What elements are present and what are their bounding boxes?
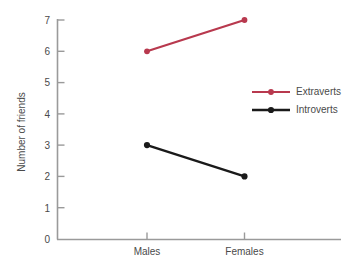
legend-item-extraverts[interactable]: Extraverts: [252, 86, 341, 97]
y-axis-ticks: [58, 20, 65, 208]
series-introverts-point-females: [241, 173, 247, 179]
y-tick-label-6: 6: [44, 46, 50, 57]
series-introverts: [144, 142, 248, 179]
series-introverts-line: [147, 145, 245, 176]
y-axis-tick-labels: 7 6 5 4 3 2 1 0: [44, 15, 50, 245]
y-tick-label-7: 7: [44, 15, 50, 26]
series-extraverts: [144, 17, 247, 54]
legend-label-extraverts: Extraverts: [296, 86, 341, 97]
y-tick-label-1: 1: [44, 203, 50, 214]
x-axis-tick-labels: Males Females: [134, 246, 264, 257]
x-tick-label-males: Males: [134, 246, 161, 257]
chart-canvas: 7 6 5 4 3 2 1 0 Number of friends Males …: [0, 0, 359, 270]
x-tick-label-females: Females: [225, 246, 263, 257]
legend-item-introverts[interactable]: Introverts: [252, 104, 338, 115]
y-tick-label-5: 5: [44, 77, 50, 88]
series-extraverts-line: [147, 20, 245, 51]
y-tick-label-3: 3: [44, 140, 50, 151]
legend-marker-introverts: [268, 107, 274, 113]
line-chart: 7 6 5 4 3 2 1 0 Number of friends Males …: [0, 0, 359, 270]
x-axis-ticks: [147, 233, 245, 240]
series-extraverts-point-males: [144, 48, 150, 54]
series-extraverts-point-females: [242, 17, 248, 23]
legend-marker-extraverts: [268, 89, 274, 95]
y-axis-title: Number of friends: [16, 92, 27, 171]
y-tick-label-4: 4: [44, 109, 50, 120]
series-introverts-point-males: [144, 142, 150, 148]
y-tick-label-2: 2: [44, 171, 50, 182]
legend-label-introverts: Introverts: [296, 104, 338, 115]
chart-legend: Extraverts Introverts: [252, 86, 341, 115]
axis-lines: [57, 19, 341, 240]
y-tick-label-0: 0: [44, 234, 50, 245]
